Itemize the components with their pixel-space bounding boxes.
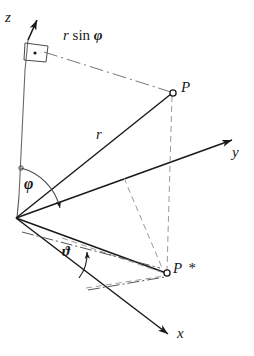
p-to-pstar-drop: [167, 96, 172, 270]
point-p-star-marker: [164, 270, 170, 276]
angle-label-phi: φ: [24, 176, 33, 192]
spherical-coordinates-figure: z y x P P * r φ ϑ r sin φ: [0, 0, 254, 356]
axis-label-z: z: [5, 10, 11, 25]
figure-canvas: [0, 0, 254, 356]
axis-label-y: y: [232, 145, 239, 160]
r-sin-phi-line: [44, 52, 171, 92]
line-O-Pstar: [16, 218, 166, 273]
point-p-marker: [170, 90, 176, 96]
axis-label-x: x: [177, 326, 184, 341]
r-sin-phi-label: r sin φ: [63, 28, 103, 43]
angle-label-theta: ϑ: [62, 244, 70, 259]
radius-label: r: [96, 127, 102, 142]
projection-box: [62, 178, 164, 288]
x-axis: [16, 218, 168, 334]
point-label-p-star: P *: [173, 261, 196, 276]
theta-reference-line: [22, 232, 160, 268]
point-label-p: P: [181, 80, 190, 95]
theta-arc: [79, 252, 87, 278]
lower-dash-dot-edge: [88, 277, 165, 290]
r-sin-phi-phi: φ: [94, 27, 103, 43]
radius-line-OP: [16, 94, 171, 218]
r-sin-phi-sin: sin: [69, 27, 94, 43]
